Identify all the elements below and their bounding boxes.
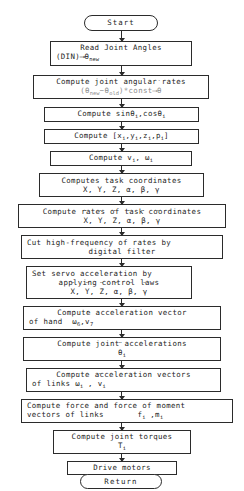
node-drive-motors: Drive motors <box>67 461 177 475</box>
node-read-joint-angles-line2: (DIN)⟶θnew <box>53 52 189 64</box>
node-position-vectors-line1: Compute [xi,yi,zi,pi] <box>74 131 169 143</box>
connector-position-to-velocities <box>121 144 122 151</box>
connector-sincos-to-position <box>121 122 122 129</box>
node-joint-torques-line2: Ti <box>118 441 126 453</box>
node-velocities: Compute vi, ωi <box>50 151 192 166</box>
connector-start-to-read <box>121 31 122 41</box>
node-joint-angular-rates: Compute joint angular rates (θnew−θold)*… <box>33 75 209 99</box>
connector-jointaccel-to-linkaccel <box>121 361 122 368</box>
node-task-coordinates-line2: X, Y, Z, α, β, γ <box>83 185 160 194</box>
connector-linkaccel-to-linkforces <box>121 392 122 399</box>
node-joint-accelerations: Compute joint accelerations θi <box>23 337 221 361</box>
node-read-joint-angles-line1: Read Joint Angles <box>80 43 162 52</box>
connector-task-to-taskrates <box>121 197 122 204</box>
connector-velocities-to-task <box>121 166 122 173</box>
connector-servo-to-handaccel <box>121 299 122 306</box>
node-sin-cos: Compute sinθi,cosθi <box>44 107 199 122</box>
node-joint-angular-rates-line2: (θnew−θold)*const⟶θ <box>80 86 162 98</box>
node-task-coordinates: Computes task coordinates X, Y, Z, α, β,… <box>39 173 204 197</box>
node-drive-motors-line1: Drive motors <box>93 463 151 472</box>
node-link-accelerations: Compute acceleration vectors of links ωi… <box>26 368 221 392</box>
node-task-coordinate-rates-line2: X, Y, Z, α, β, γ <box>84 216 161 225</box>
connector-taskrates-to-filter <box>121 228 122 235</box>
node-digital-filter: Cut high-frequency of rates by digital f… <box>21 235 223 259</box>
node-servo-acceleration-line3: X, Y, Z, α, β, γ <box>71 287 148 296</box>
node-joint-torques: Compute joint torques Ti <box>53 430 191 454</box>
connector-rates-to-sincos <box>121 99 122 107</box>
node-joint-angular-rates-line1: Compute joint angular rates <box>56 77 186 86</box>
node-sin-cos-line1: Compute sinθi,cosθi <box>77 109 165 121</box>
node-link-forces-line1: Compute force and force of moment <box>24 401 230 410</box>
node-return-label: Return <box>104 477 137 486</box>
node-link-forces: Compute force and force of moment vector… <box>21 399 233 423</box>
node-hand-acceleration-line2: of hand ω6,v7 <box>26 317 218 329</box>
node-link-accelerations-line2: of links ωi , vi <box>29 379 218 391</box>
connector-handaccel-to-jointaccel <box>121 330 122 337</box>
node-joint-torques-line1: Compute joint torques <box>72 432 173 441</box>
node-start-label: Start <box>107 18 135 27</box>
node-servo-acceleration-line1: Set servo acceleration by <box>29 269 189 278</box>
node-task-coordinates-line1: Computes task coordinates <box>62 176 182 185</box>
flowchart-diagram: Start Read Joint Angles (DIN)⟶θnew Compu… <box>0 0 244 491</box>
node-servo-acceleration: Set servo acceleration by applying contr… <box>26 266 192 299</box>
node-link-forces-line2: vectors of links fi ,mi <box>24 410 230 422</box>
connector-filter-to-servo <box>121 259 122 266</box>
node-digital-filter-line2: digital filter <box>88 247 155 256</box>
connector-read-to-rates <box>121 66 122 75</box>
connector-linkforces-to-torques <box>121 423 122 430</box>
connector-torques-to-drive <box>121 454 122 461</box>
node-hand-acceleration: Compute acceleration vector of hand ω6,v… <box>23 306 221 330</box>
node-start: Start <box>84 15 158 31</box>
node-digital-filter-line1: Cut high-frequency of rates by <box>24 238 220 247</box>
node-read-joint-angles: Read Joint Angles (DIN)⟶θnew <box>50 41 192 66</box>
node-joint-accelerations-line2: θi <box>118 348 126 360</box>
node-return: Return <box>80 474 162 489</box>
node-task-coordinate-rates-line1: Compute rates of task coordinates <box>43 207 201 216</box>
node-task-coordinate-rates: Compute rates of task coordinates X, Y, … <box>18 204 226 228</box>
node-position-vectors: Compute [xi,yi,zi,pi] <box>44 129 199 144</box>
node-velocities-line1: Compute vi, ωi <box>89 153 153 165</box>
